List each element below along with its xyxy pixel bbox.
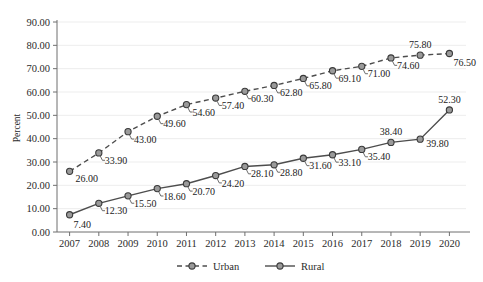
data-label-urban-2011: 54.60	[192, 107, 215, 118]
x-axis-tick-label: 2010	[147, 238, 168, 249]
data-label-rural-2018: 38.40	[380, 126, 403, 137]
x-axis-tick-label: 2019	[410, 238, 431, 249]
y-axis-tick-label: 90.00	[26, 17, 50, 28]
data-point-rural-2012	[213, 172, 219, 178]
x-axis-tick-label: 2020	[439, 238, 460, 249]
data-label-rural-2016: 33.10	[339, 157, 362, 168]
data-point-rural-2015	[300, 155, 306, 161]
data-label-rural-2015: 31.60	[309, 160, 332, 171]
y-axis-tick-label: 40.00	[26, 133, 50, 144]
data-point-urban-2015	[300, 75, 306, 81]
data-label-urban-2018: 74.60	[397, 60, 420, 71]
data-point-rural-2013	[242, 163, 248, 169]
data-label-urban-2015: 65.80	[309, 80, 332, 91]
data-point-urban-2018	[388, 55, 394, 61]
data-label-urban-2007: 26.00	[76, 173, 99, 184]
data-label-rural-2020: 52.30	[438, 94, 461, 105]
data-point-urban-2008	[96, 150, 102, 156]
x-axis-tick-label: 2011	[176, 238, 197, 249]
x-axis-tick-label: 2017	[351, 238, 372, 249]
data-point-rural-2011	[183, 181, 189, 187]
data-point-rural-2010	[154, 186, 160, 192]
data-label-urban-2013: 60.30	[251, 93, 274, 104]
data-point-urban-2017	[359, 63, 365, 69]
data-point-rural-2009	[125, 193, 131, 199]
y-axis-tick-label: 80.00	[26, 40, 50, 51]
y-axis-tick-label: 20.00	[26, 180, 50, 191]
data-label-urban-2008: 33.90	[105, 155, 128, 166]
data-label-rural-2010: 18.60	[163, 191, 186, 202]
data-label-rural-2014: 28.80	[280, 167, 303, 178]
data-label-rural-2011: 20.70	[192, 186, 215, 197]
data-label-urban-2017: 71.00	[368, 68, 391, 79]
data-point-urban-2013	[242, 88, 248, 94]
data-label-urban-2012: 57.40	[222, 100, 245, 111]
data-point-rural-2020	[446, 107, 452, 113]
data-label-rural-2017: 35.40	[368, 151, 391, 162]
data-point-urban-2012	[213, 95, 219, 101]
y-axis-tick-label: 30.00	[26, 157, 50, 168]
data-label-rural-2019: 39.80	[426, 138, 449, 149]
data-label-urban-2010: 49.60	[163, 118, 186, 129]
line-chart: 0.0010.0020.0030.0040.0050.0060.0070.008…	[0, 0, 483, 282]
x-axis-tick-label: 2016	[322, 238, 343, 249]
x-axis-tick-label: 2015	[293, 238, 314, 249]
chart-canvas: 0.0010.0020.0030.0040.0050.0060.0070.008…	[0, 0, 483, 282]
data-point-rural-2019	[417, 136, 423, 142]
data-point-urban-2010	[154, 113, 160, 119]
data-label-rural-2012: 24.20	[222, 178, 245, 189]
data-point-rural-2018	[388, 139, 394, 145]
legend-marker-icon	[189, 263, 195, 269]
data-point-rural-2016	[329, 152, 335, 158]
data-point-rural-2017	[359, 146, 365, 152]
data-label-urban-2020: 76.50	[453, 57, 476, 68]
x-axis-tick-label: 2014	[264, 238, 286, 249]
data-point-urban-2007	[67, 168, 73, 174]
data-label-rural-2008: 12.30	[105, 205, 128, 216]
data-label-urban-2014: 62.80	[280, 87, 303, 98]
x-axis-tick-label: 2007	[59, 238, 80, 249]
data-label-rural-2013: 28.10	[251, 168, 274, 179]
data-point-rural-2014	[271, 162, 277, 168]
y-axis-tick-label: 60.00	[26, 87, 50, 98]
y-axis-tick-label: 0.00	[32, 227, 50, 238]
x-axis-tick-label: 2009	[118, 238, 139, 249]
data-label-urban-2019: 75.80	[409, 39, 432, 50]
data-point-rural-2008	[96, 200, 102, 206]
x-axis-tick-label: 2008	[88, 238, 109, 249]
y-axis-tick-label: 50.00	[26, 110, 50, 121]
legend-label: Urban	[213, 261, 240, 272]
x-axis-tick-label: 2012	[205, 238, 226, 249]
legend-marker-icon	[277, 263, 283, 269]
data-point-urban-2011	[183, 102, 189, 108]
data-point-urban-2009	[125, 129, 131, 135]
x-axis-tick-label: 2013	[234, 238, 255, 249]
y-axis-tick-label: 70.00	[26, 63, 50, 74]
y-axis-tick-label: 10.00	[26, 203, 50, 214]
x-axis-tick-label: 2018	[380, 238, 401, 249]
data-label-urban-2009: 43.00	[134, 134, 157, 145]
data-point-rural-2007	[67, 212, 73, 218]
data-label-urban-2016: 69.10	[339, 73, 362, 84]
data-point-urban-2016	[329, 68, 335, 74]
data-point-urban-2014	[271, 82, 277, 88]
data-point-urban-2019	[417, 52, 423, 58]
data-label-rural-2009: 15.50	[134, 198, 157, 209]
data-point-urban-2020	[446, 50, 452, 56]
y-axis-title: Percent	[12, 113, 22, 142]
legend-label: Rural	[301, 261, 324, 272]
data-label-rural-2007: 7.40	[74, 219, 92, 230]
